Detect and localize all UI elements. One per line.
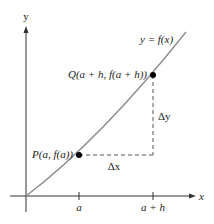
y-axis (24, 26, 29, 212)
diagram-canvas: y x a a + h y = f(x) Δx Δy P(a, f(a)) Q(… (0, 0, 214, 224)
x-axis-label: x (198, 190, 204, 202)
y-axis-label: y (23, 10, 29, 22)
y-axis-arrow-icon (24, 26, 29, 33)
point-p (76, 152, 82, 158)
x-axis (10, 194, 196, 199)
point-q (150, 72, 156, 78)
x-axis-arrow-icon (189, 194, 196, 199)
point-q-label: Q(a + h, f(a + h)) (68, 68, 147, 81)
delta-x-label: Δx (108, 160, 121, 172)
tick-label-a-plus-h: a + h (141, 201, 165, 213)
tick-label-a: a (76, 201, 82, 213)
delta-y-label: Δy (158, 110, 171, 122)
point-p-label: P(a, f(a)) (31, 148, 73, 161)
curve-label: y = f(x) (139, 33, 173, 46)
secant-diagram: y x a a + h y = f(x) Δx Δy P(a, f(a)) Q(… (0, 0, 214, 224)
